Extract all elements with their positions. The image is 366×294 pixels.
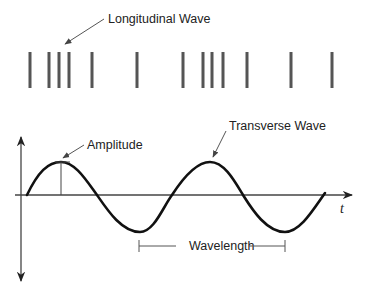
amplitude-label: Amplitude (87, 138, 143, 152)
compression-bar (222, 52, 225, 88)
longitudinal-wave-bars (29, 52, 334, 88)
compression-bar (68, 52, 71, 88)
compression-bar (331, 52, 334, 88)
compression-bar (211, 52, 214, 88)
compression-bar (136, 52, 139, 88)
longitudinal-wave-label: Longitudinal Wave (108, 12, 210, 26)
compression-bar (182, 52, 185, 88)
compression-bar (91, 52, 94, 88)
compression-bar (29, 52, 32, 88)
wave-diagram: Longitudinal Wave t Amplitude Transverse… (0, 0, 366, 294)
transverse-wave-label: Transverse Wave (229, 119, 326, 133)
longitudinal-pointer-arrow-icon (65, 19, 104, 44)
transverse-wave-curve (27, 162, 325, 232)
amplitude-pointer-arrow-icon (63, 145, 84, 158)
compression-bar (202, 52, 205, 88)
compression-bar (48, 52, 51, 88)
compression-bar (58, 52, 61, 88)
compression-bar (246, 52, 249, 88)
transverse-pointer-arrow-icon (213, 131, 226, 157)
wavelength-label: Wavelength (189, 239, 255, 253)
time-axis-label: t (340, 201, 345, 216)
compression-bar (290, 52, 293, 88)
